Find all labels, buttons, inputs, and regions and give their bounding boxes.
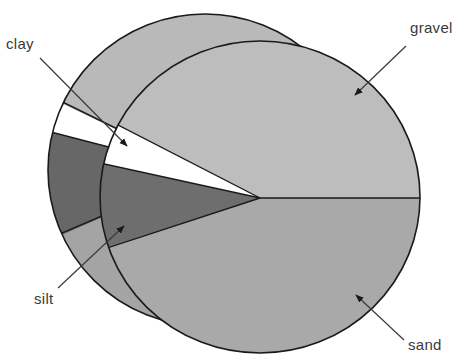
label-silt: silt (34, 291, 54, 306)
label-sand: sand (408, 337, 442, 352)
label-gravel: gravel (410, 20, 453, 35)
soil-composition-pie-diagram (0, 0, 464, 358)
sand-leader-arrow (356, 295, 404, 340)
gravel-leader-arrow (355, 46, 406, 95)
label-clay: clay (6, 36, 34, 51)
